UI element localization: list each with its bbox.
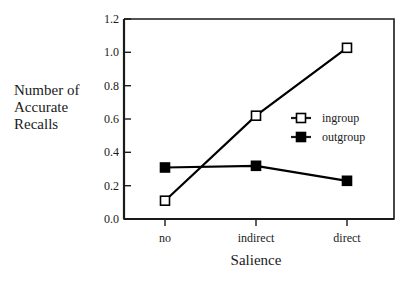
data-point-ingroup-no [161, 196, 170, 205]
data-point-outgroup-no [161, 163, 170, 172]
legend-label-outgroup: outgroup [322, 130, 365, 144]
x-category-label-direct: direct [333, 231, 361, 245]
data-point-ingroup-indirect [252, 111, 261, 120]
data-point-outgroup-indirect [252, 161, 261, 170]
series-outgroup [161, 161, 352, 185]
y-axis-title: Number of Accurate Recalls [14, 82, 79, 132]
y-tick-label-6: 1.2 [104, 12, 119, 26]
x-axis-title: Salience [231, 252, 282, 268]
line-chart: 0.0 0.2 0.4 0.6 0.8 1.0 1.2 no indirect … [0, 0, 406, 282]
series-ingroup-line [165, 48, 347, 201]
y-tick-label-3: 0.6 [104, 112, 119, 126]
legend-label-ingroup: ingroup [322, 111, 359, 125]
x-category-label-indirect: indirect [238, 231, 275, 245]
y-axis-title-line-2: Accurate [14, 99, 68, 115]
legend-item-outgroup: outgroup [291, 130, 365, 144]
y-tick-label-2: 0.4 [104, 145, 119, 159]
y-tick-label-0: 0.0 [104, 212, 119, 226]
y-axis-title-line-1: Number of [14, 82, 79, 98]
chart-container: 0.0 0.2 0.4 0.6 0.8 1.0 1.2 no indirect … [0, 0, 406, 282]
y-axis-tick-labels: 0.0 0.2 0.4 0.6 0.8 1.0 1.2 [104, 12, 119, 226]
legend-marker-outgroup-filled-square-icon [297, 133, 306, 142]
legend-marker-ingroup-open-square-icon [297, 114, 306, 123]
y-tick-label-4: 0.8 [104, 79, 119, 93]
chart-legend: ingroup outgroup [291, 111, 365, 144]
data-point-ingroup-direct [343, 43, 352, 52]
x-axis-category-labels: no indirect direct [159, 231, 361, 245]
y-tick-label-1: 0.2 [104, 179, 119, 193]
y-axis-title-line-3: Recalls [14, 116, 58, 132]
data-point-outgroup-direct [343, 176, 352, 185]
x-category-label-no: no [159, 231, 171, 245]
legend-item-ingroup: ingroup [291, 111, 359, 125]
y-tick-label-5: 1.0 [104, 45, 119, 59]
